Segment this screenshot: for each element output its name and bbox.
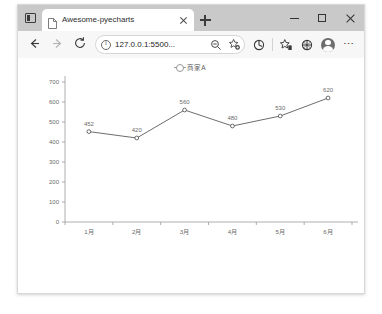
extensions-icon[interactable] <box>297 35 317 55</box>
back-button[interactable] <box>23 34 45 56</box>
svg-text:5月: 5月 <box>276 228 285 236</box>
favorites-icon[interactable] <box>276 35 296 55</box>
address-input[interactable]: 127.0.0.1:5500... <box>115 41 205 49</box>
add-favorite-icon[interactable] <box>227 38 241 52</box>
svg-text:500: 500 <box>49 119 60 125</box>
window-controls <box>280 5 364 31</box>
svg-text:700: 700 <box>49 79 60 85</box>
svg-text:0: 0 <box>56 219 60 225</box>
arrow-right-icon <box>51 36 64 54</box>
svg-text:420: 420 <box>132 127 143 133</box>
avatar <box>321 38 335 52</box>
tab-strip: Awesome-pyecharts <box>18 5 364 31</box>
ellipsis-glyph: ⋯ <box>343 39 355 50</box>
toolbar-divider <box>272 38 273 51</box>
svg-text:600: 600 <box>49 99 60 105</box>
browser-toolbar: 127.0.0.1:5500... <box>18 31 364 58</box>
line-chart[interactable]: 01002003004005006007001月2月3月4月5月6月452420… <box>18 58 364 258</box>
tab-actions-button[interactable] <box>18 5 42 31</box>
profile-icon[interactable] <box>318 35 338 55</box>
browser-tab[interactable]: Awesome-pyecharts <box>42 9 194 31</box>
tab-actions-icon <box>25 13 36 23</box>
forward-button[interactable] <box>46 34 68 56</box>
browser-window: Awesome-pyecharts <box>17 4 365 294</box>
new-tab-button[interactable] <box>194 9 216 31</box>
window-close-button[interactable] <box>336 5 364 31</box>
svg-text:480: 480 <box>227 115 238 121</box>
svg-text:620: 620 <box>323 87 334 93</box>
chart-svg: 01002003004005006007001月2月3月4月5月6月452420… <box>18 58 364 258</box>
collections-icon[interactable] <box>249 35 269 55</box>
tab-title: Awesome-pyecharts <box>62 16 173 24</box>
svg-text:530: 530 <box>275 105 286 111</box>
window-maximize-button[interactable] <box>308 5 336 31</box>
zoom-icon[interactable] <box>209 38 223 52</box>
page-favicon-icon <box>48 15 57 26</box>
tab-close-icon[interactable] <box>178 15 189 26</box>
svg-text:3月: 3月 <box>180 228 189 236</box>
refresh-button[interactable] <box>69 34 91 56</box>
svg-text:300: 300 <box>49 159 60 165</box>
site-info-icon[interactable] <box>101 40 111 50</box>
address-bar[interactable]: 127.0.0.1:5500... <box>95 35 245 54</box>
svg-text:4月: 4月 <box>228 228 237 236</box>
svg-text:1月: 1月 <box>84 228 93 236</box>
svg-text:452: 452 <box>84 121 95 127</box>
window-minimize-button[interactable] <box>280 5 308 31</box>
svg-text:560: 560 <box>180 99 191 105</box>
settings-more-icon[interactable]: ⋯ <box>339 35 359 55</box>
svg-text:2月: 2月 <box>132 228 141 236</box>
svg-text:6月: 6月 <box>323 228 332 236</box>
svg-text:200: 200 <box>49 179 60 185</box>
svg-text:400: 400 <box>49 139 60 145</box>
svg-text:100: 100 <box>49 199 60 205</box>
refresh-icon <box>73 36 87 54</box>
page-content: 商家A 01002003004005006007001月2月3月4月5月6月45… <box>18 58 364 293</box>
arrow-left-icon <box>28 36 41 54</box>
